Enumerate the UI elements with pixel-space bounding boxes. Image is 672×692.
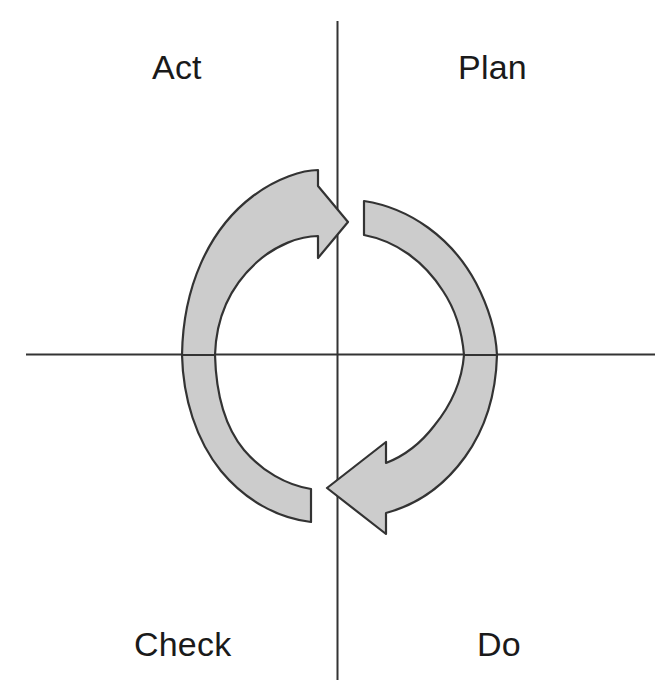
pdca-cycle-graphic — [0, 0, 672, 692]
upper-cycle-arrow-band — [182, 170, 348, 355]
quadrant-label-do: Do — [477, 627, 521, 661]
lower-cycle-arrow-band — [327, 355, 497, 534]
quadrant-label-plan: Plan — [458, 50, 527, 84]
pdca-diagram: Act Plan Check Do — [0, 0, 672, 692]
quadrant-label-check: Check — [134, 627, 231, 661]
upper-cycle-arrow-tail — [364, 201, 497, 355]
quadrant-label-act: Act — [152, 50, 202, 84]
lower-cycle-arrow-tail — [182, 355, 311, 522]
